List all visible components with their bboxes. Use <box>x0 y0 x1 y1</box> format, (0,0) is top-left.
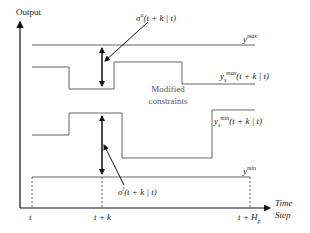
sigma-l-label: σl(t + k | t) <box>118 186 157 197</box>
sigma-u-pointer <box>105 22 148 61</box>
modified-constraints-label: Modified constraints <box>138 84 198 107</box>
y-max-label: ymax <box>243 33 257 44</box>
tick-t: t <box>29 213 32 222</box>
sigma-u-label: σu(t + k | t) <box>136 12 176 23</box>
tick-t-plus-hp: t + Hp <box>238 213 261 224</box>
tick-t-plus-k: t + k <box>94 213 111 222</box>
x-axis-label-time: Time <box>275 199 293 208</box>
diagram-canvas <box>0 0 310 233</box>
center-text-line2: constraints <box>138 96 198 108</box>
y-axis-label: Output <box>16 8 41 17</box>
ys-min-label: ysmin(t + k | t) <box>214 115 262 128</box>
sigma-l-pointer <box>104 145 124 185</box>
y-min-label: ymin <box>243 165 256 176</box>
center-text-line1: Modified <box>138 84 198 96</box>
x-axis-label-step: Step <box>275 211 291 220</box>
ys-max-label: ysmax(t + k | t) <box>220 70 269 83</box>
